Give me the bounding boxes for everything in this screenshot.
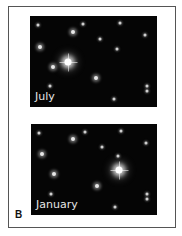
- star-icon: [50, 193, 53, 196]
- figure-letter: B: [15, 209, 22, 220]
- star-icon: [144, 34, 147, 37]
- star-icon: [114, 206, 117, 209]
- star-icon: [71, 30, 75, 34]
- star-icon: [117, 155, 120, 158]
- star-icon: [37, 24, 40, 27]
- star-icon: [71, 137, 75, 141]
- star-icon: [120, 130, 123, 133]
- night-sky-panel-january: January: [31, 124, 157, 215]
- panel-label-july: July: [35, 91, 55, 103]
- star-icon: [38, 45, 42, 49]
- star-icon: [101, 146, 104, 149]
- star-icon: [52, 172, 56, 176]
- star-icon: [94, 76, 98, 80]
- star-icon: [113, 98, 116, 101]
- star-icon: [40, 152, 44, 156]
- star-icon: [146, 85, 149, 88]
- star-icon: [38, 132, 41, 135]
- star-icon: [51, 65, 55, 69]
- night-sky-panel-july: July: [30, 16, 157, 107]
- panel-label-january: January: [36, 199, 78, 211]
- star-icon: [119, 22, 122, 25]
- bright-star-icon: [116, 167, 123, 174]
- star-icon: [146, 198, 149, 201]
- star-icon: [99, 38, 102, 41]
- star-icon: [82, 23, 85, 26]
- star-icon: [49, 85, 52, 88]
- star-icon: [116, 48, 119, 51]
- star-icon: [145, 142, 148, 145]
- star-icon: [146, 193, 149, 196]
- bright-star-icon: [65, 59, 72, 66]
- star-icon: [146, 90, 149, 93]
- star-icon: [84, 131, 87, 134]
- star-icon: [95, 184, 99, 188]
